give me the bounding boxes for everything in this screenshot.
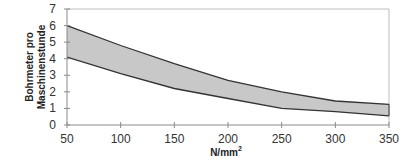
y-tick-label: 6 <box>49 19 56 33</box>
x-tick-label: 250 <box>272 132 292 146</box>
x-axis-title-superscript: 2 <box>238 145 242 152</box>
y-tick-label: 2 <box>49 85 56 99</box>
y-tick-label: 1 <box>49 101 56 115</box>
y-tick-label: 4 <box>49 52 56 66</box>
y-tick-label: 7 <box>49 2 56 16</box>
x-axis-title-base: N/mm <box>210 147 238 158</box>
y-tick-label: 0 <box>49 118 56 132</box>
chart: 01234567 50100150200250300350 Bohrmeter … <box>0 0 417 166</box>
x-tick-label: 50 <box>60 132 74 146</box>
x-tick-label: 100 <box>111 132 131 146</box>
x-axis-ticks: 50100150200250300350 <box>60 122 399 146</box>
x-axis-title: N/mm2 <box>210 145 242 158</box>
y-axis-title-line-2: Maschinenstunde <box>36 24 47 109</box>
x-tick-label: 350 <box>379 132 399 146</box>
x-tick-label: 150 <box>164 132 184 146</box>
range-band <box>67 26 389 116</box>
x-tick-label: 300 <box>325 132 345 146</box>
y-tick-label: 3 <box>49 68 56 82</box>
x-tick-label: 200 <box>218 132 238 146</box>
y-tick-label: 5 <box>49 35 56 49</box>
y-axis-title-line-1: Bohrmeter pro <box>24 32 35 101</box>
